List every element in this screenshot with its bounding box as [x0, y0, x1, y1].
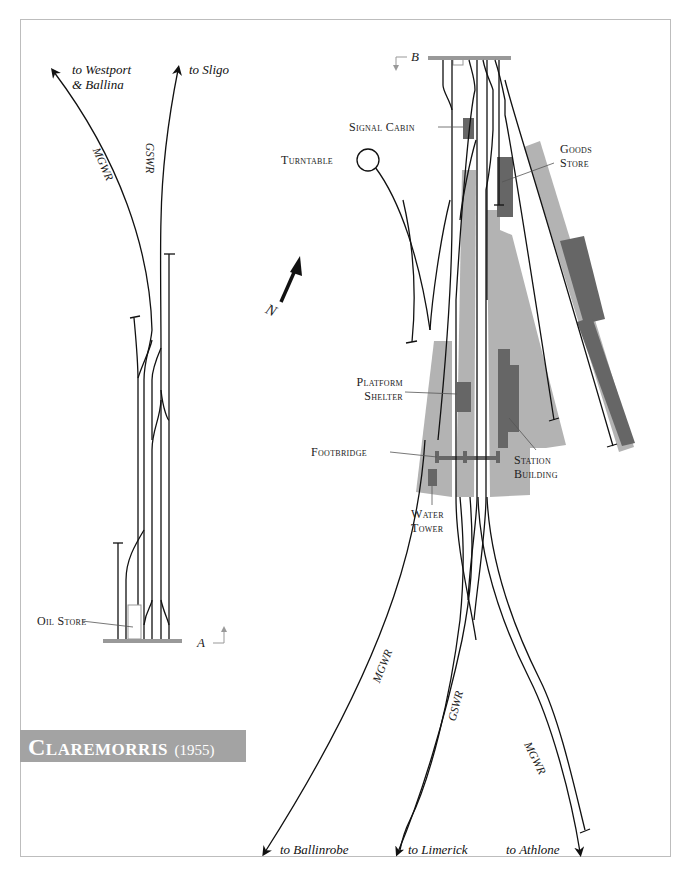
- footbridge-pier: [463, 451, 467, 463]
- label-goods-store: GoodsStore: [560, 142, 592, 170]
- map-title: Claremorris (1955): [28, 734, 214, 763]
- label-footbridge: Footbridge: [311, 445, 367, 459]
- island-platform: [456, 170, 476, 497]
- rail-label-gswr-north: GSWR: [144, 143, 156, 174]
- dest-ballinrobe: to Ballinrobe: [280, 842, 349, 857]
- section-b-bar: [428, 56, 511, 60]
- gswr-limerick-line: [400, 497, 463, 850]
- north-arrow-icon: [281, 256, 302, 302]
- water-tower-building: [428, 469, 437, 486]
- title-banner: Claremorris (1955): [20, 730, 246, 762]
- label-oil-store: Oil Store: [37, 614, 86, 628]
- dest-limerick: to Limerick: [408, 842, 468, 857]
- section-a-bar: [103, 639, 182, 643]
- label-water-tower: WaterTower: [411, 507, 444, 535]
- mgwr-ballinrobe-line: [265, 440, 425, 852]
- turntable-icon: [357, 149, 379, 171]
- dest-sligo: to Sligo: [189, 62, 229, 77]
- section-marker-a: A: [197, 635, 205, 651]
- goods-shed-lower: [577, 317, 635, 446]
- label-signal-cabin: Signal Cabin: [349, 120, 415, 134]
- north-tracks: [54, 70, 178, 639]
- label-platform-shelter: PlatformShelter: [337, 375, 403, 403]
- section-marker-b: B: [411, 49, 419, 65]
- dest-westport: to Westport & Ballina: [72, 62, 131, 92]
- label-turntable: Turntable: [281, 153, 333, 167]
- label-station-building: StationBuilding: [514, 453, 558, 481]
- oil-store-building: [128, 605, 141, 639]
- footbridge-deck: [437, 456, 499, 460]
- dest-athlone: to Athlone: [506, 842, 560, 857]
- footbridge-pier: [496, 451, 500, 463]
- platform-shelter-building: [457, 382, 471, 412]
